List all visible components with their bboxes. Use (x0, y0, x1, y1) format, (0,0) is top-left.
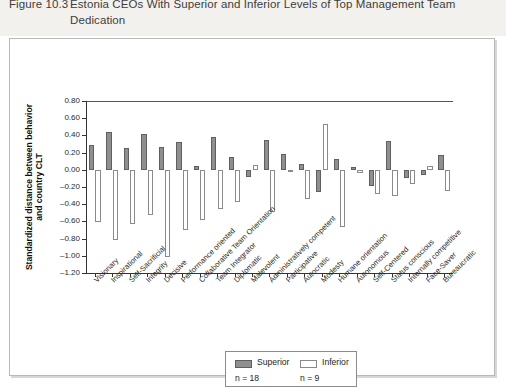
y-tick-label: 0.00 (50, 165, 80, 174)
y-tick (82, 256, 86, 257)
bar-superior-13 (316, 170, 321, 192)
bar-inferior-6 (200, 170, 205, 220)
legend-label-superior: Superior (257, 357, 289, 367)
bar-superior-15 (351, 167, 356, 170)
bar-superior-11 (281, 154, 286, 169)
y-tick-label: –0.40 (50, 199, 80, 208)
y-tick-label: 0.80 (50, 96, 80, 105)
bar-superior-14 (334, 159, 339, 169)
bar-inferior-11 (288, 170, 293, 173)
bar-inferior-7 (218, 170, 223, 210)
bar-inferior-0 (95, 170, 100, 222)
bar-inferior-9 (253, 165, 258, 170)
y-axis-title: Standardized distance between behavior a… (24, 101, 40, 273)
y-tick (82, 135, 86, 136)
y-axis-title-text: Standardized distance between behavior a… (24, 101, 44, 273)
y-tick-label: –1.00 (50, 251, 80, 260)
legend-n-inferior: n = 9 (300, 373, 319, 383)
bar-superior-5 (176, 142, 181, 170)
bar-superior-19 (421, 170, 426, 175)
bar-superior-6 (194, 166, 199, 169)
legend-n-superior: n = 18 (235, 373, 259, 383)
bar-superior-4 (159, 147, 164, 170)
bar-inferior-16 (375, 170, 380, 194)
y-tick (82, 187, 86, 188)
bar-inferior-20 (445, 170, 450, 192)
y-tick (82, 204, 86, 205)
bar-superior-3 (141, 134, 146, 170)
y-tick (82, 118, 86, 119)
bar-superior-9 (246, 170, 251, 177)
y-tick (82, 170, 86, 171)
y-tick-label: 0.60 (50, 113, 80, 122)
bar-superior-0 (89, 145, 94, 170)
zero-baseline (86, 101, 453, 102)
bar-superior-17 (386, 141, 391, 169)
bar-inferior-19 (427, 166, 432, 169)
y-tick-label: –0.60 (50, 216, 80, 225)
bar-inferior-18 (410, 170, 415, 185)
bar-superior-7 (211, 137, 216, 170)
y-tick (82, 153, 86, 154)
figure-panel: Standardized distance between behavior a… (9, 38, 495, 376)
bar-superior-16 (369, 170, 374, 186)
bar-superior-2 (124, 148, 129, 170)
y-tick (82, 221, 86, 222)
y-tick-label: 0.40 (50, 130, 80, 139)
bar-inferior-15 (357, 170, 362, 173)
bar-superior-1 (106, 132, 111, 170)
bar-inferior-1 (113, 170, 118, 241)
bar-superior-12 (299, 164, 304, 170)
bar-superior-18 (404, 170, 409, 179)
bar-superior-8 (229, 157, 234, 170)
figure-caption: Figure 10.3 Estonia CEOs With Superior a… (0, 0, 506, 36)
legend-label-inferior: Inferior (322, 357, 349, 367)
bar-inferior-13 (323, 124, 328, 170)
bar-superior-20 (438, 155, 443, 170)
figure-title-line1: Estonia CEOs With Superior and Inferior … (70, 0, 456, 10)
bar-inferior-17 (392, 170, 397, 196)
bar-inferior-12 (305, 170, 310, 199)
y-tick-label: –0.20 (50, 182, 80, 191)
bar-inferior-3 (148, 170, 153, 216)
bar-inferior-2 (130, 170, 135, 224)
figure-title-line2: Dedication (70, 14, 125, 26)
plot-area: 0.800.600.400.200.00–0.20–0.40–0.60–0.80… (86, 101, 453, 273)
bar-inferior-5 (183, 170, 188, 230)
bar-inferior-4 (165, 170, 170, 257)
legend-swatch-superior (235, 360, 252, 368)
y-axis-line (86, 101, 87, 273)
figure-number: Figure 10.3 (9, 0, 68, 10)
bar-inferior-8 (235, 170, 240, 202)
y-tick (82, 239, 86, 240)
bar-inferior-14 (340, 170, 345, 227)
legend-swatch-inferior (300, 360, 317, 368)
y-tick-label: –1.20 (50, 268, 80, 277)
chart-legend: Superior Inferior n = 18 n = 9 (225, 351, 357, 387)
bar-superior-10 (264, 140, 269, 170)
y-tick (82, 273, 86, 274)
y-tick-label: 0.20 (50, 148, 80, 157)
y-tick (82, 101, 86, 102)
y-tick-label: –0.80 (50, 234, 80, 243)
